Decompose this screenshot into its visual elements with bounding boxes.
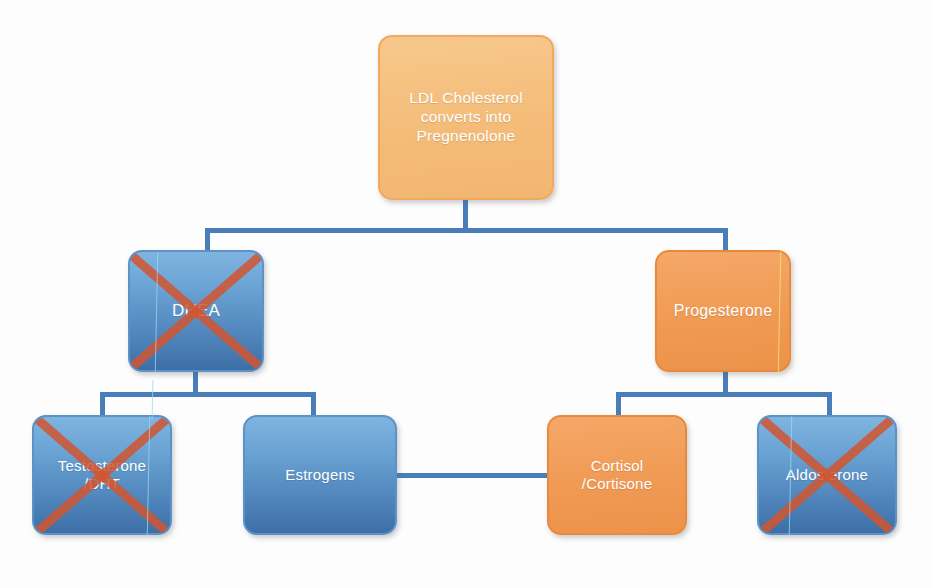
node-aldosterone[interactable]: Aldosterone xyxy=(757,415,897,535)
edge-ldl-stem xyxy=(463,198,468,231)
node-ldl-cholesterol-label: LDL Cholesterol converts into Pregnenolo… xyxy=(403,89,529,146)
node-dhea[interactable]: DHEA xyxy=(128,250,264,372)
node-progesterone[interactable]: Progesterone xyxy=(655,250,791,372)
node-ldl-cholesterol[interactable]: LDL Cholesterol converts into Pregnenolo… xyxy=(378,35,554,200)
node-aldosterone-label: Aldosterone xyxy=(780,466,874,484)
edge-progesterone-bus xyxy=(616,392,832,397)
node-testosterone-dht[interactable]: Testosterone /DHT xyxy=(32,415,172,535)
node-testosterone-dht-label: Testosterone /DHT xyxy=(52,457,152,494)
node-estrogens[interactable]: Estrogens xyxy=(243,415,397,535)
node-cortisol-cortisone[interactable]: Cortisol /Cortisone xyxy=(547,415,687,535)
scan-artifact-line xyxy=(152,380,154,420)
node-progesterone-label: Progesterone xyxy=(668,301,778,321)
edge-estrogens-to-cortisol xyxy=(396,473,548,478)
node-cortisol-cortisone-label: Cortisol /Cortisone xyxy=(576,457,658,494)
node-dhea-label: DHEA xyxy=(166,301,226,322)
diagram-canvas: LDL Cholesterol converts into Pregnenolo… xyxy=(0,0,930,588)
node-estrogens-label: Estrogens xyxy=(279,466,360,484)
edge-dhea-bus xyxy=(100,392,316,397)
edge-level1-bus xyxy=(205,228,728,233)
